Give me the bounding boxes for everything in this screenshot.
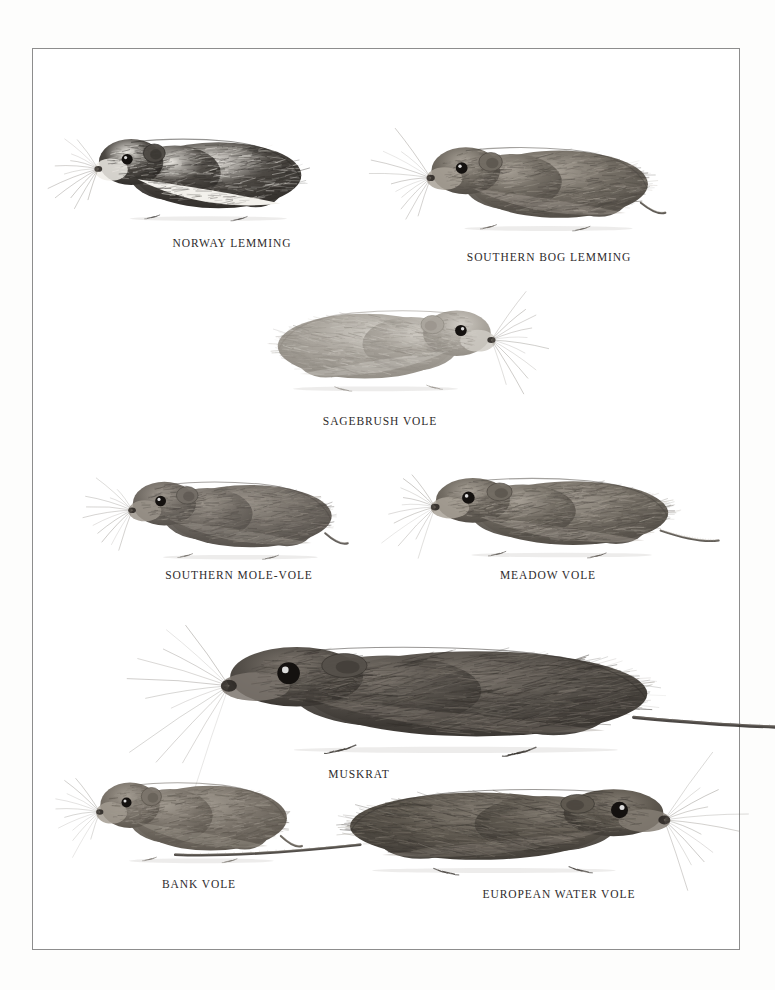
illustration-plate: NORWAY LEMMING SOUTHERN BOG LEMMING SAGE… [0,0,775,990]
caption-norway-lemming: NORWAY LEMMING [152,237,312,249]
figure-sagebrush-vole [256,290,498,398]
european-water-vole-illustration [318,768,674,880]
figure-meadow-vole [428,458,692,564]
sagebrush-vole-illustration [256,290,498,398]
caption-bank-vole: BANK VOLE [134,878,264,890]
caption-southern-mole-vole: SOUTHERN MOLE-VOLE [144,569,334,581]
southern-bog-lemming-illustration [424,126,670,238]
figure-bank-vole [94,762,306,870]
bank-vole-illustration [94,762,306,870]
muskrat-illustration [216,620,690,762]
figure-southern-mole-vole [126,462,352,566]
meadow-vole-illustration [428,458,692,564]
figure-european-water-vole [318,768,674,880]
caption-southern-bog-lemming: SOUTHERN BOG LEMMING [456,251,642,263]
caption-sagebrush-vole: SAGEBRUSH VOLE [300,415,460,427]
southern-mole-vole-illustration [126,462,352,566]
figure-southern-bog-lemming [424,126,670,238]
figure-norway-lemming [92,118,322,228]
figure-muskrat [216,620,690,762]
caption-meadow-vole: MEADOW VOLE [474,569,622,581]
norway-lemming-illustration [92,118,322,228]
caption-european-water-vole: EUROPEAN WATER VOLE [464,888,654,900]
